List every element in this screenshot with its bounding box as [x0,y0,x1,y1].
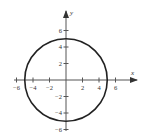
circle-graph: −6−4−2246 642−2−4−6 x y [0,0,149,140]
y-tick-label: −6 [55,126,63,133]
y-tick-label: −2 [55,93,62,100]
y-tick-label: 6 [59,27,63,34]
y-axis-label: y [69,9,74,17]
x-tick-label: 6 [114,84,118,91]
x-tick-label: −4 [30,84,38,91]
x-ticks: −6−4−2246 [13,78,118,91]
y-tick-label: 2 [59,60,62,67]
x-tick-label: −6 [13,84,21,91]
y-tick-label: −4 [55,109,63,116]
x-tick-label: 2 [81,84,84,91]
x-tick-label: 4 [97,84,101,91]
plot-area: −6−4−2246 642−2−4−6 x y [0,0,149,140]
x-tick-label: −2 [46,84,53,91]
x-axis-label: x [130,69,135,77]
y-tick-label: 4 [59,43,63,50]
